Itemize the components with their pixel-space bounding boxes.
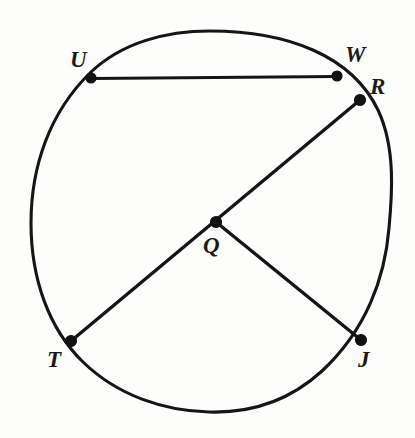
segment-UW-chord — [91, 77, 337, 79]
point-W — [332, 71, 342, 81]
segment-QJ-radius — [216, 222, 361, 340]
point-label-Q: Q — [203, 234, 220, 257]
point-T — [66, 336, 77, 347]
point-label-T: T — [47, 348, 61, 371]
point-U — [86, 73, 96, 83]
point-label-W: W — [345, 43, 365, 66]
point-label-R: R — [370, 75, 385, 98]
geometry-diagram: U W R T J Q — [0, 0, 415, 438]
point-label-U: U — [70, 48, 87, 71]
point-label-J: J — [358, 348, 370, 371]
point-J — [356, 335, 367, 346]
point-R — [355, 95, 366, 106]
point-Q-center — [211, 217, 222, 228]
